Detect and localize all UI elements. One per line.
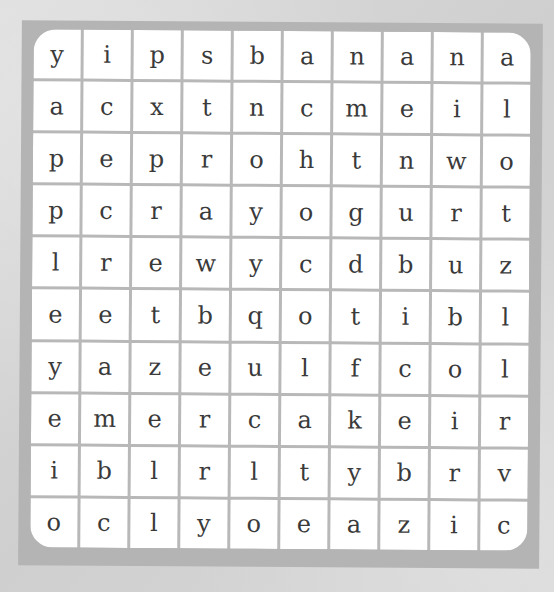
grid-cell-r9-c5[interactable]: l bbox=[231, 447, 278, 496]
grid-cell-r6-c5[interactable]: q bbox=[232, 291, 279, 340]
grid-cell-r5-c7[interactable]: d bbox=[332, 240, 379, 289]
grid-cell-r8-c9[interactable]: i bbox=[431, 397, 478, 446]
grid-cell-r7-c5[interactable]: u bbox=[231, 343, 278, 392]
grid-cell-r2-c4[interactable]: t bbox=[183, 82, 230, 131]
grid-cell-r9-c8[interactable]: b bbox=[381, 449, 428, 498]
grid-cell-r4-c3[interactable]: r bbox=[132, 186, 179, 235]
grid-cell-r4-c7[interactable]: g bbox=[332, 188, 379, 237]
grid-cell-r8-c8[interactable]: e bbox=[381, 396, 428, 445]
grid-cell-r3-c9[interactable]: w bbox=[433, 136, 480, 185]
grid-cell-r2-c2[interactable]: c bbox=[83, 82, 130, 131]
grid-cell-r4-c4[interactable]: a bbox=[182, 187, 229, 236]
grid-cell-r1-c8[interactable]: a bbox=[383, 32, 430, 81]
grid-cell-r2-c1[interactable]: a bbox=[33, 81, 80, 130]
grid-cell-r1-c9[interactable]: n bbox=[433, 32, 480, 81]
grid-cell-r10-c4[interactable]: y bbox=[180, 499, 227, 548]
grid-cell-r2-c8[interactable]: e bbox=[383, 84, 430, 133]
grid-cell-r6-c6[interactable]: o bbox=[282, 291, 329, 340]
grid-cell-r3-c4[interactable]: r bbox=[183, 135, 230, 184]
grid-cell-r1-c3[interactable]: p bbox=[134, 30, 181, 79]
grid-cell-r7-c2[interactable]: a bbox=[81, 342, 128, 391]
grid-cell-r6-c4[interactable]: b bbox=[182, 291, 229, 340]
grid-cell-r3-c8[interactable]: n bbox=[383, 136, 430, 185]
grid-cell-r7-c4[interactable]: e bbox=[181, 343, 228, 392]
grid-cell-r9-c3[interactable]: l bbox=[131, 447, 178, 496]
grid-cell-r8-c2[interactable]: m bbox=[81, 394, 128, 443]
grid-cell-r1-c2[interactable]: i bbox=[84, 30, 131, 79]
grid-cell-r4-c10[interactable]: t bbox=[482, 189, 529, 238]
grid-cell-r5-c3[interactable]: e bbox=[132, 238, 179, 287]
grid-cell-r9-c4[interactable]: r bbox=[181, 447, 228, 496]
grid-cell-r10-c9[interactable]: i bbox=[430, 501, 477, 550]
grid-cell-r7-c10[interactable]: l bbox=[481, 345, 528, 394]
grid-cell-r9-c6[interactable]: t bbox=[281, 448, 328, 497]
grid-cell-r9-c1[interactable]: i bbox=[31, 446, 78, 495]
grid-cell-r10-c6[interactable]: e bbox=[280, 500, 327, 549]
grid-cell-r4-c9[interactable]: r bbox=[432, 188, 479, 237]
grid-cell-r6-c3[interactable]: t bbox=[132, 290, 179, 339]
grid-cell-r8-c6[interactable]: a bbox=[281, 396, 328, 445]
grid-cell-r3-c7[interactable]: t bbox=[333, 136, 380, 185]
grid-cell-r5-c8[interactable]: b bbox=[382, 240, 429, 289]
grid-cell-r10-c7[interactable]: a bbox=[330, 500, 377, 549]
grid-cell-r10-c3[interactable]: l bbox=[130, 499, 177, 548]
grid-cell-r2-c10[interactable]: l bbox=[483, 85, 530, 134]
grid-cell-r5-c4[interactable]: w bbox=[182, 239, 229, 288]
grid-cell-r8-c3[interactable]: e bbox=[131, 395, 178, 444]
grid-cell-r1-c10[interactable]: a bbox=[483, 32, 530, 81]
grid-cell-r4-c6[interactable]: o bbox=[282, 187, 329, 236]
grid-cell-r9-c10[interactable]: v bbox=[481, 449, 528, 498]
grid-cell-r10-c10[interactable]: c bbox=[480, 501, 527, 550]
grid-cell-r6-c7[interactable]: t bbox=[332, 292, 379, 341]
grid-cell-r4-c1[interactable]: p bbox=[32, 186, 79, 235]
grid-cell-r7-c6[interactable]: l bbox=[281, 344, 328, 393]
grid-cell-r1-c6[interactable]: a bbox=[283, 31, 330, 80]
grid-cell-r3-c6[interactable]: h bbox=[283, 135, 330, 184]
grid-cell-r4-c2[interactable]: c bbox=[82, 186, 129, 235]
grid-cell-r6-c9[interactable]: b bbox=[432, 293, 479, 342]
grid-cell-r7-c3[interactable]: z bbox=[131, 343, 178, 392]
grid-cell-r8-c10[interactable]: r bbox=[481, 397, 528, 446]
grid-cell-r5-c10[interactable]: z bbox=[482, 241, 529, 290]
grid-cell-r5-c2[interactable]: r bbox=[82, 238, 129, 287]
grid-cell-r10-c8[interactable]: z bbox=[380, 501, 427, 550]
grid-cell-r3-c3[interactable]: p bbox=[133, 134, 180, 183]
grid-cell-r2-c7[interactable]: m bbox=[333, 83, 380, 132]
grid-cell-r7-c9[interactable]: o bbox=[431, 345, 478, 394]
grid-cell-r4-c8[interactable]: u bbox=[382, 188, 429, 237]
grid-cell-r2-c3[interactable]: x bbox=[133, 82, 180, 131]
grid-cell-r8-c5[interactable]: c bbox=[231, 395, 278, 444]
grid-cell-r7-c7[interactable]: f bbox=[331, 344, 378, 393]
grid-cell-r9-c2[interactable]: b bbox=[81, 446, 128, 495]
grid-cell-r1-c7[interactable]: n bbox=[333, 31, 380, 80]
grid-cell-r2-c9[interactable]: i bbox=[433, 84, 480, 133]
grid-cell-r1-c4[interactable]: s bbox=[183, 30, 230, 79]
grid-cell-r6-c8[interactable]: i bbox=[382, 292, 429, 341]
grid-cell-r3-c2[interactable]: e bbox=[83, 134, 130, 183]
grid-cell-r5-c9[interactable]: u bbox=[432, 240, 479, 289]
grid-cell-r6-c2[interactable]: e bbox=[82, 290, 129, 339]
grid-cell-r3-c5[interactable]: o bbox=[233, 135, 280, 184]
grid-cell-r8-c4[interactable]: r bbox=[181, 395, 228, 444]
grid-cell-r7-c8[interactable]: c bbox=[381, 344, 428, 393]
grid-cell-r6-c1[interactable]: e bbox=[32, 290, 79, 339]
grid-cell-r5-c6[interactable]: c bbox=[282, 239, 329, 288]
grid-cell-r5-c1[interactable]: l bbox=[32, 238, 79, 287]
grid-cell-r7-c1[interactable]: y bbox=[31, 342, 78, 391]
grid-cell-r5-c5[interactable]: y bbox=[232, 239, 279, 288]
grid-cell-r9-c9[interactable]: r bbox=[431, 449, 478, 498]
grid-cell-r9-c7[interactable]: y bbox=[331, 448, 378, 497]
grid-cell-r8-c7[interactable]: k bbox=[331, 396, 378, 445]
grid-cell-r2-c5[interactable]: n bbox=[233, 83, 280, 132]
grid-cell-r6-c10[interactable]: l bbox=[482, 293, 529, 342]
grid-cell-r10-c1[interactable]: o bbox=[30, 498, 77, 547]
grid-cell-r8-c1[interactable]: e bbox=[31, 394, 78, 443]
grid-cell-r1-c5[interactable]: b bbox=[233, 31, 280, 80]
grid-cell-r10-c2[interactable]: c bbox=[80, 498, 127, 547]
grid-cell-r3-c1[interactable]: p bbox=[33, 133, 80, 182]
grid-cell-r3-c10[interactable]: o bbox=[483, 137, 530, 186]
grid-cell-r10-c5[interactable]: o bbox=[230, 500, 277, 549]
grid-cell-r4-c5[interactable]: y bbox=[232, 187, 279, 236]
grid-cell-r2-c6[interactable]: c bbox=[283, 83, 330, 132]
grid-cell-r1-c1[interactable]: y bbox=[34, 29, 81, 78]
